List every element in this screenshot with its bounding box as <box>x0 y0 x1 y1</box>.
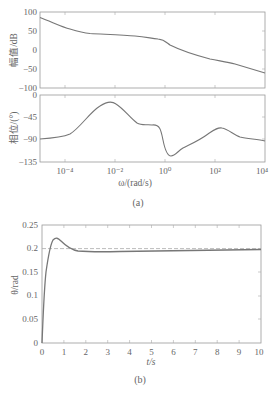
caption-a: (a) <box>132 197 143 209</box>
step-response-curve <box>42 238 261 343</box>
step-xtick: 2 <box>84 347 89 357</box>
step-ylabel: θ/rad <box>10 275 20 295</box>
phase-xtick: 10⁻⁴ <box>57 166 74 176</box>
mag-ytick: 100 <box>24 7 38 17</box>
magnitude-ylabel: 幅值/dB <box>8 33 19 67</box>
step-ytick: 0.05 <box>22 314 38 324</box>
magnitude-curve <box>40 18 265 74</box>
step-xtick: 5 <box>149 347 154 357</box>
step-ytick: 0.2 <box>27 243 38 253</box>
step-xtick: 1 <box>62 347 67 357</box>
step-xtick: 9 <box>237 347 242 357</box>
step-xtick: 8 <box>215 347 220 357</box>
step-ytick: 0.1 <box>27 290 38 300</box>
phase-ytick: −135 <box>18 157 37 167</box>
step-xtick: 4 <box>127 347 132 357</box>
magnitude-plot: 100 50 0 −50 −100 幅值/dB <box>8 7 265 93</box>
step-xtick: 7 <box>193 347 198 357</box>
caption-b: (b) <box>134 374 146 386</box>
step-xtick: 3 <box>105 347 110 357</box>
step-xtick: 0 <box>40 347 45 357</box>
phase-ylabel: 相位/(°) <box>8 112 20 145</box>
phase-plot: 0 −45 −90 −135 10⁻⁴ 10⁻² 10⁰ 10² 10⁴ 相位/… <box>8 90 268 209</box>
phase-xtick: 10⁰ <box>159 166 172 176</box>
phase-ytick: −45 <box>23 112 38 122</box>
phase-axes-frame <box>40 95 265 162</box>
step-xtick: 6 <box>171 347 176 357</box>
step-ytick: 0.15 <box>22 267 38 277</box>
mag-ytick: 0 <box>33 45 38 55</box>
step-ytick: 0.25 <box>22 220 38 230</box>
phase-curve <box>40 102 265 156</box>
step-axes-frame <box>42 225 261 343</box>
figure-canvas: 100 50 0 −50 −100 幅值/dB 0 −45 −90 −135 <box>0 0 275 393</box>
step-ytick: 0 <box>34 338 39 348</box>
mag-ytick: 50 <box>28 26 38 36</box>
mag-ytick: −50 <box>23 64 38 74</box>
magnitude-axes-frame <box>40 12 265 88</box>
phase-xtick: 10² <box>209 166 221 176</box>
phase-ytick: 0 <box>33 90 38 100</box>
phase-ytick: −90 <box>23 134 38 144</box>
step-response-plot: 0.25 0.2 0.15 0.1 0.05 0 0 1 2 <box>10 220 264 386</box>
phase-xtick: 10⁴ <box>256 166 268 176</box>
bode-xlabel: ω/(rad/s) <box>118 178 152 189</box>
step-xlabel: t/s <box>147 357 156 367</box>
phase-xtick: 10⁻² <box>107 166 124 176</box>
step-xtick: 10 <box>255 347 265 357</box>
